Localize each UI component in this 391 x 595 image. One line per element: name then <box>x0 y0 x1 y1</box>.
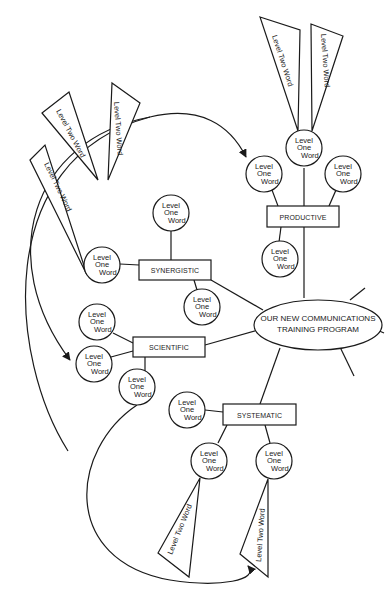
mind-map-diagram: Level Two Word Level Two Word Level Two … <box>0 0 391 595</box>
svg-text:TRAINING PROGRAM: TRAINING PROGRAM <box>277 325 359 334</box>
svg-text:Word: Word <box>277 262 295 271</box>
level-one-node: Level One Word <box>76 346 112 382</box>
branch-scientific: SCIENTIFIC <box>133 337 205 357</box>
level-one-node: Level One Word <box>79 304 115 340</box>
level-one-node: Level One Word <box>256 443 292 479</box>
level-one-node: Level One Word <box>184 289 220 325</box>
branch-systematic: SYSTEMATIC <box>223 404 296 425</box>
svg-text:Word: Word <box>301 151 319 160</box>
svg-text:Word: Word <box>206 464 224 473</box>
svg-text:SYNERGISTIC: SYNERGISTIC <box>151 267 200 274</box>
svg-text:Word: Word <box>134 390 152 399</box>
svg-text:Word: Word <box>340 177 358 186</box>
level-one-node: Level One Word <box>153 195 189 231</box>
branch-productive: PRODUCTIVE <box>267 206 339 227</box>
svg-text:Word: Word <box>184 413 202 422</box>
level-one-node: Level One Word <box>262 241 298 277</box>
level-one-node: Level One Word <box>169 392 205 428</box>
level-one-node: Level One Word <box>84 247 120 283</box>
svg-text:SCIENTIFIC: SCIENTIFIC <box>149 344 189 351</box>
svg-text:OUR NEW COMMUNICATIONS: OUR NEW COMMUNICATIONS <box>261 314 376 323</box>
center-topic: OUR NEW COMMUNICATIONS TRAINING PROGRAM <box>254 300 382 350</box>
svg-text:PRODUCTIVE: PRODUCTIVE <box>280 214 327 221</box>
branch-synergistic: SYNERGISTIC <box>139 260 211 280</box>
level-one-node: Level One Word <box>119 369 155 405</box>
svg-text:Word: Word <box>261 177 279 186</box>
svg-text:Word: Word <box>94 325 112 334</box>
level-one-node: Level One Word <box>246 156 282 192</box>
svg-text:Word: Word <box>99 268 117 277</box>
svg-text:Word: Word <box>91 367 109 376</box>
level-one-node: Level One Word <box>286 130 322 166</box>
svg-text:Word: Word <box>271 464 289 473</box>
svg-text:SYSTEMATIC: SYSTEMATIC <box>237 412 282 419</box>
svg-text:Word: Word <box>199 310 217 319</box>
level-one-node: Level One Word <box>325 156 361 192</box>
level-one-node: Level One Word <box>191 443 227 479</box>
svg-text:Word: Word <box>168 216 186 225</box>
